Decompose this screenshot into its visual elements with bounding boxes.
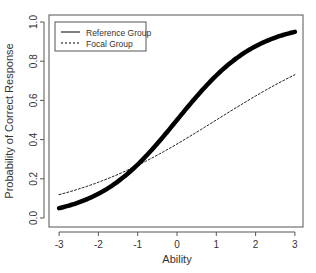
x-axis-label: Ability xyxy=(162,253,192,265)
y-axis: 0.00.20.40.60.81.0 xyxy=(28,15,44,225)
y-axis-label: Probability of Correct Response xyxy=(3,43,15,198)
legend-label-reference: Reference Group xyxy=(86,28,151,38)
y-tick-label: 0.4 xyxy=(28,132,39,146)
y-tick-label: 0.2 xyxy=(28,171,39,185)
x-tick-label: 1 xyxy=(214,239,220,250)
reference-group-curve xyxy=(59,32,295,208)
y-tick-label: 1.0 xyxy=(28,15,39,29)
y-tick-label: 0.6 xyxy=(28,93,39,107)
curves xyxy=(59,32,295,208)
x-tick-label: -2 xyxy=(94,239,103,250)
x-tick-label: 0 xyxy=(174,239,180,250)
x-tick-label: -3 xyxy=(55,239,64,250)
y-tick-label: 0.0 xyxy=(28,211,39,225)
x-tick-label: 2 xyxy=(253,239,259,250)
x-tick-label: 3 xyxy=(292,239,298,250)
focal-group-curve xyxy=(59,75,295,195)
legend-label-focal: Focal Group xyxy=(86,39,133,49)
legend: Reference Group Focal Group xyxy=(55,22,151,51)
x-axis: -3-2-10123 xyxy=(55,232,298,250)
irt-chart: -3-2-10123 0.00.20.40.60.81.0 Ability Pr… xyxy=(0,0,316,273)
x-tick-label: -1 xyxy=(133,239,142,250)
y-tick-label: 0.8 xyxy=(28,54,39,68)
